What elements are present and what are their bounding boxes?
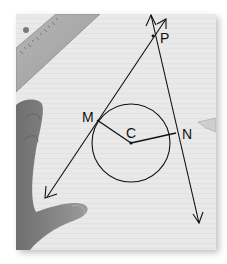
ruler-hole [23,27,29,33]
hand [16,100,88,250]
photo-scene: P M C N [0,0,227,264]
label-c: C [126,125,136,141]
center-point [129,141,132,144]
label-p: P [160,30,169,46]
ruler [16,14,100,92]
tangent-line-np [146,15,203,223]
label-n: N [182,126,192,142]
drawing-layer: P M C N [0,0,227,264]
label-m: M [82,109,94,125]
point-p-dot [152,35,155,38]
pencil-tip [198,118,216,132]
